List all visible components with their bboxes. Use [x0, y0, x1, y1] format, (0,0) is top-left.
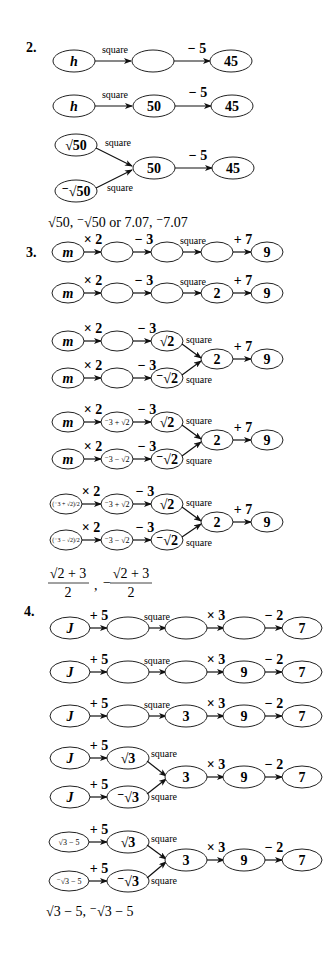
op-label: × 2 [84, 358, 102, 373]
op-label: square [186, 334, 213, 345]
op-label: × 2 [84, 232, 102, 247]
node-label: 9 [241, 665, 248, 680]
op-label: − 5 [189, 85, 207, 100]
diagram-row-branching: m × 2 − 3 √2 m × 2 − 3 ⁻√2 square square [52, 321, 283, 388]
op-label: square [180, 235, 207, 246]
node-label: 9 [264, 515, 271, 530]
op-label: − 3 [138, 321, 156, 336]
problem-number: 4. [24, 604, 35, 619]
op-label: square [151, 748, 178, 759]
node-label: ⁻3 + √2 [104, 418, 129, 427]
node-label: 3 [183, 853, 190, 868]
node-label: √2 [160, 415, 175, 430]
node-label: 50 [147, 161, 161, 176]
node-label: m [63, 415, 74, 430]
node-label: 9 [241, 709, 248, 724]
fraction-denominator: 2 [128, 585, 135, 600]
op-label: + 5 [90, 777, 108, 792]
op-label: square [151, 875, 178, 886]
op-label: + 7 [234, 339, 252, 354]
op-label: + 5 [90, 652, 108, 667]
op-label: + 5 [90, 696, 108, 711]
answer: √2 + 3 2 , − √2 + 3 2 [48, 566, 152, 600]
op-label: + 7 [234, 420, 252, 435]
op-label: square [186, 455, 213, 466]
op-label: × 3 [207, 652, 225, 667]
op-label: square [186, 374, 213, 385]
problem-number: 2. [26, 40, 37, 55]
op-label: square [186, 537, 213, 548]
op-label: square [186, 415, 213, 426]
op-label: square [144, 699, 171, 710]
node-label: 45 [224, 54, 238, 69]
op-label: square [144, 655, 171, 666]
diagram-row: m × 2 − 3 square + 7 9 [52, 232, 283, 262]
node-label: 7 [299, 665, 306, 680]
diagram-row: J + 5 square × 3 9 − 2 7 [50, 652, 322, 683]
op-label: − 2 [265, 757, 283, 772]
op-label: − 3 [136, 520, 154, 535]
fraction-numerator: √2 + 3 [50, 566, 87, 581]
op-label: square [105, 137, 132, 148]
node-label: 2 [214, 286, 221, 301]
node-label: 3 [183, 770, 190, 785]
op-label: − 3 [136, 484, 154, 499]
diagram-row-branching: (⁻3 + √2)/2 × 2 ⁻3 + √2 − 3 √2 (⁻3 − √2)… [50, 484, 283, 550]
diagram-row-branching: J + 5 √3 J + 5 ⁻√3 square square 3 × 3 9… [50, 738, 322, 808]
op-label: − 5 [188, 41, 206, 56]
op-label: × 3 [207, 757, 225, 772]
node-label: ⁻3 + √2 [104, 500, 129, 509]
op-label: square [151, 833, 178, 844]
answer: √50, ⁻√50 or 7.07, ⁻7.07 [48, 215, 188, 230]
node-label: (⁻3 + √2)/2 [52, 501, 80, 508]
arrow [96, 148, 132, 166]
node-label: √3 [121, 751, 136, 766]
node-label: J [66, 621, 75, 636]
node-label: m [63, 245, 74, 260]
node-label: 3 [183, 709, 190, 724]
op-label: + 7 [234, 232, 252, 247]
node-label: ⁻3 − √2 [104, 536, 129, 545]
op-label: × 2 [84, 439, 102, 454]
op-label: × 2 [84, 402, 102, 417]
op-label: − 3 [138, 402, 156, 417]
op-label: − 2 [265, 696, 283, 711]
op-label: square [186, 497, 213, 508]
separator: , [94, 578, 98, 593]
node-label: ⁻√2 [156, 533, 178, 548]
node-label: √3 − 5 [59, 838, 80, 847]
node-label: 45 [225, 99, 239, 114]
op-label: − 2 [265, 652, 283, 667]
node-label: 9 [241, 853, 248, 868]
fraction-denominator: 2 [65, 585, 72, 600]
diagram-row: h square 50 − 5 45 [53, 85, 253, 117]
node-label: m [63, 452, 74, 467]
diagram-row: m × 2 − 3 square 2 + 7 9 [52, 273, 283, 303]
diagram-row-branching: m × 2 ⁻3 + √2 − 3 √2 m × 2 ⁻3 − √2 − 3 ⁻… [52, 402, 283, 469]
problem-4: 4. J + 5 square × 3 − 2 7 J [24, 604, 322, 919]
node-label: m [63, 334, 74, 349]
diagram-row-branching: √50 ⁻√50 square square 50 − 5 45 [55, 134, 254, 202]
node-label: m [63, 371, 74, 386]
op-label: square [151, 791, 178, 802]
node-label: 9 [264, 352, 271, 367]
node-label: h [70, 54, 78, 69]
problem-2: 2. h square − 5 45 h square 50 − 5 45 [26, 40, 254, 230]
op-label: × 2 [84, 273, 102, 288]
node-label: h [70, 99, 78, 114]
op-label: × 2 [84, 321, 102, 336]
op-label: + 5 [90, 861, 108, 876]
op-label: square [144, 611, 171, 622]
node-label: √2 [160, 334, 175, 349]
node-label: ⁻3 − √2 [104, 455, 129, 464]
fraction-numerator: √2 + 3 [113, 566, 150, 581]
node-label: 9 [241, 770, 248, 785]
node-label: 9 [264, 286, 271, 301]
op-label: × 2 [82, 484, 100, 499]
node-label: 9 [264, 245, 271, 260]
node [132, 50, 174, 72]
node-label: 2 [214, 352, 221, 367]
node-label: J [66, 751, 75, 766]
op-label: + 5 [90, 738, 108, 753]
op-label: × 3 [207, 696, 225, 711]
